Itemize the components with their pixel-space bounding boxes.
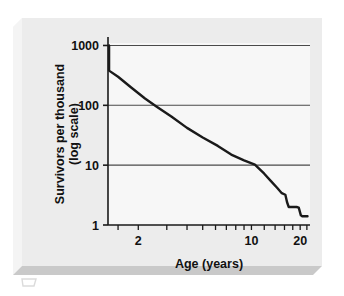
y-tick-label: 1	[92, 219, 99, 233]
panel-bevel-left	[13, 18, 22, 275]
y-tick-label: 1000	[71, 39, 99, 53]
x-tick-label: 20	[293, 234, 307, 248]
x-tick-label: 2	[135, 234, 142, 248]
figure-container: 100010010121020Age (years)Survivors per …	[0, 0, 344, 296]
x-tick-label: 10	[244, 234, 258, 248]
y-axis-title-line-2: (log scale)	[67, 103, 81, 165]
x-axis-title: Age (years)	[175, 257, 243, 271]
y-tick-label: 10	[85, 159, 99, 173]
y-tick-label: 100	[78, 99, 99, 113]
survivorship-chart: 100010010121020Age (years)Survivors per …	[0, 0, 344, 296]
panel-bevel-bottom	[13, 266, 322, 275]
beveled-panel: 100010010121020Age (years)Survivors per …	[0, 0, 344, 296]
plot-background	[108, 43, 310, 225]
y-axis-title-line-1: Survivors per thousand	[53, 64, 67, 204]
